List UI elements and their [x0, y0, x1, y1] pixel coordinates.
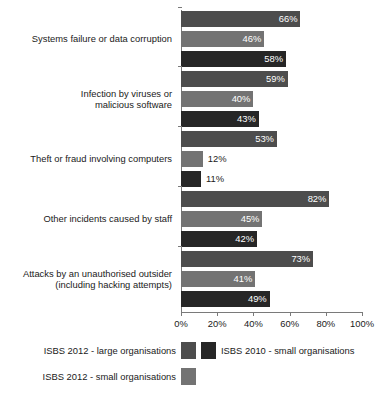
x-axis-tick: [253, 312, 254, 316]
legend-label: ISBS 2012 - large organisations: [44, 345, 181, 356]
bar-value-label: 12%: [208, 151, 227, 167]
legend-entry-isbs-2012-small-organisations[interactable]: ISBS 2012 - small organisations: [0, 366, 196, 386]
category-label: Attacks by an unauthorised outsider (inc…: [0, 268, 172, 291]
x-axis-tick-label: 40%: [244, 318, 263, 329]
bar-value-label: 53%: [255, 131, 274, 147]
legend-swatch: [181, 368, 196, 385]
legend-label: ISBS 2010 - small organisations: [216, 345, 354, 356]
bar-row: 58%: [181, 51, 385, 67]
legend-entry-isbs-2010-small-organisations[interactable]: ISBS 2010 - small organisations: [201, 340, 354, 360]
bar-group: 73%41%49%: [181, 251, 385, 307]
bar[interactable]: [181, 171, 201, 187]
bar-value-label: 58%: [264, 51, 283, 67]
bar-group: 82%45%42%: [181, 191, 385, 247]
axis-separator-tick: [178, 246, 182, 247]
bar-value-label: 46%: [243, 31, 262, 47]
bar[interactable]: [181, 151, 203, 167]
category-label: Other incidents caused by staff: [0, 213, 172, 225]
category-group: Infection by viruses or malicious softwa…: [0, 71, 385, 127]
bar-row: 42%: [181, 231, 385, 247]
bar-row: 43%: [181, 111, 385, 127]
axis-separator-tick: [178, 186, 182, 187]
axis-separator-tick: [178, 126, 182, 127]
x-axis-tick: [362, 312, 363, 316]
x-axis-tick: [181, 312, 182, 316]
bar-row: 49%: [181, 291, 385, 307]
bar-row: 82%: [181, 191, 385, 207]
bar-value-label: 42%: [235, 231, 254, 247]
bar-value-label: 49%: [248, 291, 267, 307]
x-axis-line: [181, 312, 362, 313]
bar-row: 66%: [181, 11, 385, 27]
category-group: Attacks by an unauthorised outsider (inc…: [0, 251, 385, 307]
category-label: Systems failure or data corruption: [0, 33, 172, 45]
legend-label: ISBS 2012 - small organisations: [43, 371, 181, 382]
legend-entry-isbs-2012-large-organisations[interactable]: ISBS 2012 - large organisations: [0, 340, 196, 360]
bar-group: 66%46%58%: [181, 11, 385, 67]
x-axis-tick-label: 100%: [350, 318, 374, 329]
bar-value-label: 43%: [237, 111, 256, 127]
legend-row-2: ISBS 2012 - small organisations: [0, 366, 385, 386]
category-group: Other incidents caused by staff82%45%42%: [0, 191, 385, 247]
x-axis-tick-label: 80%: [316, 318, 335, 329]
x-axis-tick: [326, 312, 327, 316]
bar-row: 53%: [181, 131, 385, 147]
bar-value-label: 82%: [308, 191, 327, 207]
bar-row: 59%: [181, 71, 385, 87]
chart-plot-area: Systems failure or data corruption66%46%…: [0, 0, 385, 330]
bar-value-label: 59%: [266, 71, 285, 87]
bar-row: 73%: [181, 251, 385, 267]
category-group: Systems failure or data corruption66%46%…: [0, 11, 385, 67]
bar-value-label: 11%: [206, 171, 224, 187]
x-axis-tick-label: 60%: [280, 318, 299, 329]
category-group: Theft or fraud involving computers53%12%…: [0, 131, 385, 187]
bar-value-label: 73%: [291, 251, 310, 267]
bar-group: 53%12%11%: [181, 131, 385, 187]
bar-row: 46%: [181, 31, 385, 47]
bar-row: 11%: [181, 171, 385, 187]
bar-row: 45%: [181, 211, 385, 227]
chart-page: Systems failure or data corruption66%46%…: [0, 0, 385, 397]
axis-top-tick: [178, 7, 182, 8]
legend-row-1: ISBS 2012 - large organisations ISBS 201…: [0, 340, 385, 360]
bar-value-label: 66%: [279, 11, 298, 27]
bar-value-label: 41%: [233, 271, 252, 287]
x-axis-tick: [290, 312, 291, 316]
chart-legend: ISBS 2012 - large organisations ISBS 201…: [0, 340, 385, 390]
bar-group: 59%40%43%: [181, 71, 385, 127]
x-axis-tick-label: 20%: [208, 318, 227, 329]
bar-row: 12%: [181, 151, 385, 167]
bar-row: 41%: [181, 271, 385, 287]
legend-swatch: [201, 342, 216, 359]
bar-row: 40%: [181, 91, 385, 107]
x-axis-tick: [217, 312, 218, 316]
x-axis-tick-label: 0%: [174, 318, 188, 329]
legend-swatch: [181, 342, 196, 359]
axis-separator-tick: [178, 66, 182, 67]
bar-value-label: 40%: [232, 91, 251, 107]
bar-value-label: 45%: [241, 211, 260, 227]
category-label: Theft or fraud involving computers: [0, 153, 172, 165]
category-label: Infection by viruses or malicious softwa…: [0, 88, 172, 111]
